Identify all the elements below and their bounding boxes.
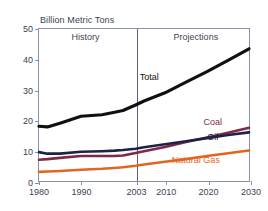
chart-title: Billion Metric Tons [40, 15, 114, 25]
x-tick-label: 2030 [241, 187, 261, 197]
x-tick-mark [81, 181, 82, 185]
x-tick-mark [166, 181, 167, 185]
series-label-natural-gas: Natural Gas [172, 155, 220, 165]
chart-container: Billion Metric Tons 01020304050 19801990… [0, 0, 268, 211]
series-line-total [39, 49, 249, 127]
x-tick-label: 2003 [127, 187, 147, 197]
x-tick-label: 2020 [199, 187, 219, 197]
y-tick-label: 20 [23, 116, 33, 126]
x-tick-mark [209, 181, 210, 185]
x-tick-label: 1990 [71, 187, 91, 197]
x-tick-label: 1980 [29, 187, 49, 197]
x-tick-mark [251, 181, 252, 185]
x-tick-mark [39, 181, 40, 185]
x-tick-mark [137, 181, 138, 185]
y-tick-label: 50 [23, 24, 33, 34]
series-label-coal: Coal [204, 117, 223, 127]
series-label-total: Total [140, 72, 159, 82]
series-label-oil: Oil [207, 132, 218, 142]
plot-area: 01020304050 198019902003201020202030 His… [38, 28, 250, 182]
y-tick-label: 10 [23, 147, 33, 157]
y-tick-label: 30 [23, 86, 33, 96]
y-tick-label: 40 [23, 55, 33, 65]
x-tick-label: 2010 [156, 187, 176, 197]
